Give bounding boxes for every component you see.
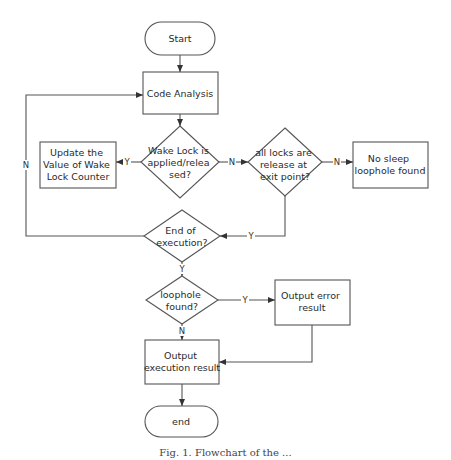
edge-label-wakelock-yes: Y (123, 157, 130, 167)
end-exec-decision-diamond (144, 210, 220, 262)
edge-label-alllocks-no: N (334, 157, 340, 167)
edge-label-endexec-no: N (23, 160, 29, 170)
start-label: Start (168, 33, 191, 44)
edge-label-alllocks-yes: Y (247, 231, 254, 241)
flowchart: Start Code Analysis Wake Lock is applied… (0, 0, 451, 460)
edge-alllocks-endexec (220, 196, 285, 236)
all-locks-decision-label: all locks are release at exit point? (255, 147, 315, 182)
edge-label-loophole-no: N (179, 326, 185, 336)
end-label: end (172, 416, 190, 427)
edge-label-wakelock-no: N (229, 157, 235, 167)
code-analysis-label: Code Analysis (147, 88, 214, 99)
edge-label-loophole-yes: Y (241, 295, 248, 305)
loophole-decision-label: loophole found? (160, 289, 204, 312)
loophole-decision-diamond (146, 276, 218, 324)
figure-caption: Fig. 1. Flowchart of the ... (0, 447, 451, 458)
edge-label-endexec-yes: Y (178, 264, 185, 274)
update-counter-label: Update the Value of Wake Lock Counter (43, 147, 113, 182)
edge-error-exec (219, 325, 312, 362)
